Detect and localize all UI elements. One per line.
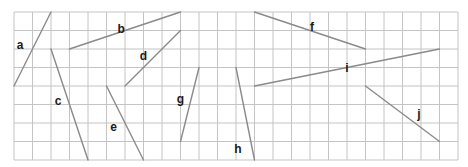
grid-diagram: abcdefghij xyxy=(0,0,468,167)
segment-label-g: g xyxy=(177,92,184,106)
segment-d xyxy=(125,31,181,87)
segment-labels: abcdefghij xyxy=(17,20,421,156)
segment-label-b: b xyxy=(118,22,125,36)
segment-label-e: e xyxy=(110,120,117,134)
segment-label-d: d xyxy=(140,49,147,63)
segment-label-h: h xyxy=(234,142,241,156)
segment-label-a: a xyxy=(17,38,24,52)
segment-label-j: j xyxy=(416,107,420,121)
segment-label-c: c xyxy=(55,94,62,108)
segment-label-i: i xyxy=(345,61,348,75)
